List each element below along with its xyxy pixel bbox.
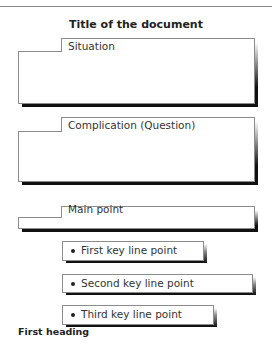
key-line-label: Second key line point [81, 277, 194, 289]
bullet-icon [71, 249, 75, 253]
bullet-icon [71, 282, 75, 286]
key-line-label: Third key line point [81, 308, 182, 320]
main-point-body [18, 217, 255, 229]
key-line-label: First key line point [81, 244, 177, 256]
situation-label: Situation [68, 40, 115, 52]
main-point-label: Main point [68, 203, 123, 215]
situation-body [18, 51, 255, 104]
complication-label: Complication (Question) [68, 119, 195, 131]
tab-joint [62, 216, 254, 218]
complication-body [18, 131, 255, 182]
top-rule [0, 6, 272, 7]
bullet-icon [71, 313, 75, 317]
first-heading: First heading [18, 326, 89, 337]
document-title: Title of the document [0, 18, 272, 31]
